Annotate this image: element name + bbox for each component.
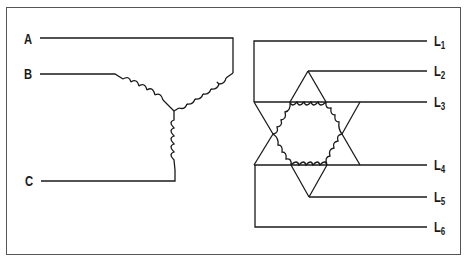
coil-c: [171, 111, 175, 170]
label-letter: L: [434, 94, 441, 110]
lead-c: [41, 170, 175, 181]
winding-diagram: [0, 0, 467, 264]
label-subscript: 5: [441, 196, 445, 207]
terminal-label-l5: L5: [434, 190, 445, 207]
label-letter: L: [434, 33, 441, 49]
terminal-label-a: A: [24, 32, 32, 46]
terminal-label-l3: L3: [434, 95, 445, 112]
wye-winding: [40, 38, 233, 181]
label-letter: L: [434, 157, 441, 173]
terminal-label-b: B: [24, 67, 32, 81]
coil-a: [179, 78, 226, 109]
label-subscript: 3: [441, 101, 445, 112]
coil-b: [123, 78, 163, 100]
lead-a: [40, 38, 233, 73]
label-subscript: 1: [441, 40, 445, 51]
label-letter: L: [434, 219, 441, 235]
label-subscript: 4: [441, 164, 445, 175]
terminal-label-l4: L4: [434, 158, 445, 175]
hex-coils: [273, 102, 342, 165]
label-letter: L: [434, 189, 441, 205]
terminal-label-l1: L1: [434, 34, 445, 51]
terminal-label-l2: L2: [434, 64, 445, 81]
hex-winding: [254, 41, 427, 227]
label-subscript: 2: [441, 70, 445, 81]
label-subscript: 6: [441, 226, 445, 237]
lead-b: [40, 74, 123, 79]
label-letter: L: [434, 63, 441, 79]
terminal-label-c: C: [25, 174, 33, 188]
lead-l6: [255, 165, 427, 227]
terminal-label-l6: L6: [434, 220, 445, 237]
